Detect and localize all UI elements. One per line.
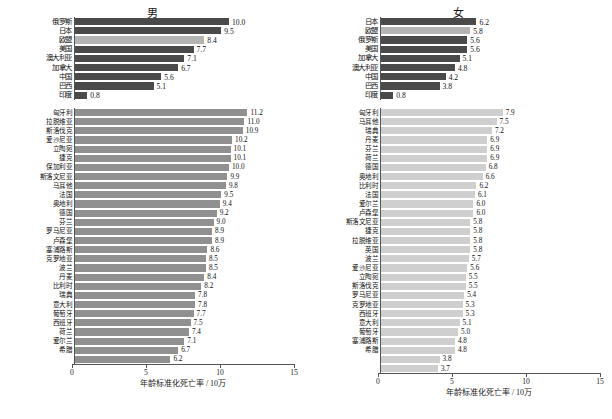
bar-value: 5.6 [470,264,479,272]
axis-tick-label: 15 [290,368,298,377]
axis-tick-label: 10 [216,368,224,377]
bar-value: 6.0 [476,200,485,208]
bar-label: 瑞典 [306,127,380,135]
bar-row: 爱尔兰6.0 [306,199,612,208]
bar-track: 7.2 [380,126,612,135]
bar-row: 印度0.8 [306,91,612,100]
bar [381,46,467,53]
bar [75,182,226,189]
axis-tick-label: 0 [376,377,380,386]
bar-value: 7.5 [194,319,203,327]
bar-row: 立陶宛10.1 [0,145,306,154]
bar [75,356,170,363]
bar-row: 荷兰7.4 [0,327,306,336]
bar-track: 10.2 [74,135,306,144]
bar-value: 8.5 [209,255,218,263]
bar-track: 5.8 [380,227,612,236]
bar [75,264,206,271]
bar-value: 5.5 [469,273,478,281]
bar [75,164,229,171]
bar-value: 4.8 [458,337,467,345]
bar-row: 塞浦路斯4.8 [306,337,612,346]
bar-track: 3.8 [380,355,612,364]
bar-track: 7.5 [74,318,306,327]
bar-track: 9.5 [74,190,306,199]
bar-label: 芬兰 [306,145,380,153]
bar [75,255,206,262]
bar-label: 欧盟 [306,27,380,35]
chart-male-countries: 俄罗斯10.0日本9.5欧盟8.4美国7.7澳大利亚7.1加拿大6.7中国5.6… [0,17,306,100]
bar [381,237,470,244]
bar [381,82,440,89]
bar-track: 7.7 [74,45,306,54]
bar-row: 俄罗斯10.0 [0,17,306,26]
bar-track: 0.8 [380,91,612,100]
bar-track: 5.6 [380,35,612,44]
bar [75,274,204,281]
bar [75,338,184,345]
bar [381,109,503,116]
bar [381,301,463,308]
bar-value: 10.9 [246,127,259,135]
bar [75,92,87,99]
bar-row: 3.8 [306,355,612,364]
bar-track: 5.8 [380,236,612,245]
panel-female: 女 日本6.2欧盟5.8俄罗斯5.6美国5.6加拿大5.1澳大利亚4.8中国4.… [306,0,612,419]
bar-label: 捷克 [0,154,74,162]
bar-label: 葡萄牙 [306,328,380,336]
bar-value: 5.8 [473,227,482,235]
bar-label: 印度 [306,91,380,99]
bar-track: 7.8 [74,300,306,309]
bar-track: 5.8 [380,218,612,227]
bar-row: 印度0.8 [0,91,306,100]
bar-row: 加拿大6.7 [0,63,306,72]
bar-row: 荷兰6.9 [306,154,612,163]
bar-label: 斯洛伐克 [306,282,380,290]
bar-value: 5.7 [472,255,481,263]
bar-row: 西班牙7.5 [0,318,306,327]
bar-label: 日本 [306,18,380,26]
bar-label: 欧盟 [0,36,74,44]
bar-label: 法国 [0,191,74,199]
bar-row: 立陶宛5.5 [306,273,612,282]
bar-label: 斯洛文尼亚 [0,173,74,181]
bar [75,191,221,198]
bar-value: 5.8 [473,237,482,245]
bar-track: 6.7 [74,346,306,355]
bar-value: 9.0 [217,218,226,226]
bar-row: 德国9.2 [0,209,306,218]
bar [381,36,467,43]
bar-row: 卢森堡8.9 [0,236,306,245]
bar-track: 7.1 [74,337,306,346]
bar-value: 7.7 [197,45,207,54]
axis-title-male: 年龄标准化死亡率 / 10万 [72,377,294,388]
bar-label: 美国 [0,45,74,53]
bar-track: 5.5 [380,282,612,291]
bar-row: 德国6.8 [306,163,612,172]
bar-track: 10.0 [74,163,306,172]
axis-tick-label: 15 [596,377,604,386]
axis-male: 年龄标准化死亡率 / 10万 051015 [0,364,306,392]
bar-track: 9.4 [74,199,306,208]
bar-track: 9.2 [74,209,306,218]
bar-label: 拉脱维亚 [0,118,74,126]
bar-row: 克罗地亚8.5 [0,254,306,263]
bar [75,237,212,244]
bar-row: 奥地利6.6 [306,172,612,181]
bar-row: 马耳他7.5 [306,117,612,126]
bar [381,228,470,235]
bar-row: 罗马尼亚5.4 [306,291,612,300]
bar-value: 8.9 [215,237,224,245]
bar [381,73,446,80]
bar-label: 保加利亚 [0,163,74,171]
bar-row: 保加利亚10.0 [0,163,306,172]
bar-label: 西班牙 [0,319,74,327]
bar-track: 9.9 [74,172,306,181]
bar [75,301,195,308]
bar-row: 澳大利亚4.8 [306,63,612,72]
bar-label: 瑞典 [0,291,74,299]
bar-track: 6.9 [380,145,612,154]
axis-tick-label: 0 [70,368,74,377]
bar-row: 拉脱维亚11.0 [0,117,306,126]
bar-value: 6.1 [478,191,487,199]
